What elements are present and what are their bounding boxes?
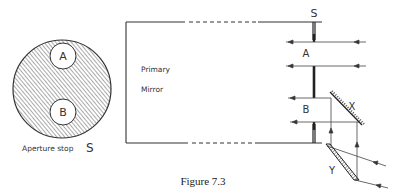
- hole-b-label: B: [59, 106, 67, 119]
- stop-label: S: [311, 7, 318, 20]
- hole-a-label: A: [59, 50, 67, 63]
- beam-b-label: B: [303, 104, 310, 115]
- aperture-stop-symbol: S: [86, 141, 94, 155]
- beam-a-label: A: [303, 48, 310, 59]
- rays: [286, 40, 388, 188]
- stop-plate: [313, 22, 315, 143]
- diagram-canvas: A B Aperture stop S Primary Mirror S: [0, 0, 402, 196]
- mirror-y-label: Y: [328, 165, 336, 176]
- aperture-stop-label: Aperture stop: [22, 144, 74, 153]
- primary-mirror-label-2: Mirror: [141, 85, 164, 94]
- mirror-x: [330, 91, 364, 125]
- primary-mirror-label-1: Primary: [141, 65, 171, 74]
- mirror-x-label: X: [349, 101, 356, 112]
- figure-caption: Figure 7.3: [180, 175, 226, 187]
